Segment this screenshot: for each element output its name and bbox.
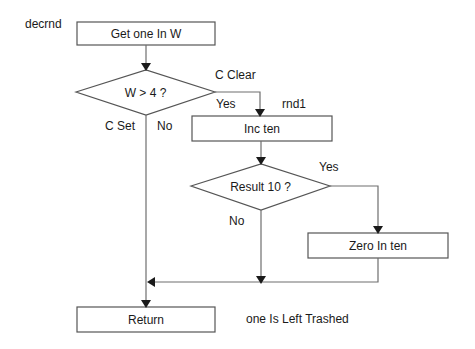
edge-label-no-2: No [229, 214, 244, 228]
w-gt-4-decision: W > 4 ? [76, 86, 215, 100]
flowchart-connectors [0, 0, 475, 349]
edge-label-c-clear: C Clear [215, 68, 256, 82]
edge-label-c-set: C Set [105, 119, 135, 133]
inc-ten-box: Inc ten [192, 122, 332, 136]
edge-label-yes: Yes [216, 97, 236, 111]
arrowhead-down [141, 63, 151, 71]
edge-label-yes-2: Yes [319, 160, 339, 174]
note-text: one Is Left Trashed [246, 312, 349, 326]
result-10-decision: Result 10 ? [191, 180, 330, 194]
arrowhead-down [256, 157, 266, 165]
zero-ten-box: Zero In ten [308, 239, 448, 253]
return-box: Return [77, 313, 215, 327]
arrowhead-down [256, 276, 266, 284]
arrowhead-left [147, 277, 155, 287]
edge-label-no: No [157, 119, 172, 133]
entry-label: decrnd [25, 17, 62, 31]
edge-label-rnd1: rnd1 [282, 97, 306, 111]
get-one-box: Get one In W [77, 27, 215, 41]
